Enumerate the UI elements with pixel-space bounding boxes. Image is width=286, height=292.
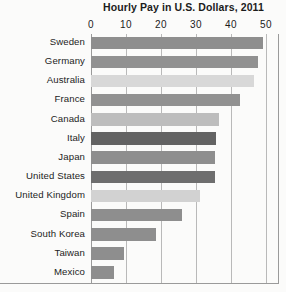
bar-row: Japan (0, 149, 286, 168)
bar-row: Italy (0, 130, 286, 149)
bar-label-united-kingdom: United Kingdom (0, 189, 85, 200)
bar-france (91, 94, 240, 107)
bar-japan (91, 151, 215, 164)
bar-label-france: France (0, 93, 85, 104)
bar-taiwan (91, 247, 124, 260)
bar-row: France (0, 91, 286, 110)
bar-row: South Korea (0, 226, 286, 245)
x-tick-label-0: 0 (76, 19, 106, 30)
x-tick-label-40: 40 (216, 19, 246, 30)
bar-row: Taiwan (0, 245, 286, 264)
bar-chart: Hourly Pay in U.S. Dollars, 2011 0102030… (0, 0, 286, 292)
bar-sweden (91, 37, 263, 50)
bar-united-kingdom (91, 190, 200, 203)
bar-row: United Kingdom (0, 187, 286, 206)
bar-row: United States (0, 168, 286, 187)
bar-row: Canada (0, 111, 286, 130)
bar-mexico (91, 266, 114, 279)
x-tick-label-50: 50 (251, 19, 281, 30)
plot-area: SwedenGermanyAustraliaFranceCanadaItalyJ… (0, 34, 286, 286)
bar-label-canada: Canada (0, 113, 85, 124)
bar-row: Australia (0, 72, 286, 91)
bar-label-spain: Spain (0, 208, 85, 219)
chart-title: Hourly Pay in U.S. Dollars, 2011 (91, 1, 276, 13)
bar-united-states (91, 171, 215, 184)
bar-label-taiwan: Taiwan (0, 247, 85, 258)
x-axis-tick-labels: 01020304050 (0, 19, 286, 33)
bar-label-germany: Germany (0, 55, 85, 66)
bar-label-south-korea: South Korea (0, 228, 85, 239)
bar-south-korea (91, 228, 156, 241)
bar-label-united-states: United States (0, 170, 85, 181)
bar-australia (91, 75, 254, 88)
bar-label-japan: Japan (0, 151, 85, 162)
bar-canada (91, 113, 219, 126)
bar-label-italy: Italy (0, 132, 85, 143)
x-tick-label-20: 20 (146, 19, 176, 30)
bar-spain (91, 209, 182, 222)
axis-bottom-rule (0, 283, 279, 284)
bar-row: Sweden (0, 34, 286, 53)
x-tick-label-30: 30 (181, 19, 211, 30)
bar-label-australia: Australia (0, 74, 85, 85)
bar-label-mexico: Mexico (0, 266, 85, 277)
bar-italy (91, 132, 216, 145)
x-tick-label-10: 10 (111, 19, 141, 30)
bar-row: Spain (0, 206, 286, 225)
bar-row: Germany (0, 53, 286, 72)
bar-germany (91, 56, 258, 69)
bar-label-sweden: Sweden (0, 36, 85, 47)
bar-row: Mexico (0, 264, 286, 283)
